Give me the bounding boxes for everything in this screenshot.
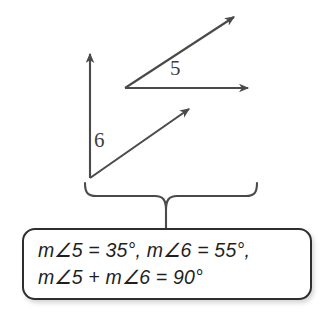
curly-brace bbox=[85, 183, 257, 228]
geometry-figure: 5 6 m∠5 = 35°, m∠6 = 55°, m∠5 + m∠6 = 90… bbox=[0, 0, 335, 318]
equation-callout: m∠5 = 35°, m∠6 = 55°, m∠5 + m∠6 = 90° bbox=[22, 228, 312, 300]
angle-6-label: 6 bbox=[94, 130, 105, 151]
callout-line-1: m∠5 = 35°, m∠6 = 55°, bbox=[38, 237, 296, 264]
angle-6-diagonal-ray bbox=[90, 109, 189, 178]
callout-line-2: m∠5 + m∠6 = 90° bbox=[38, 264, 296, 291]
angle-5-label: 5 bbox=[170, 58, 181, 79]
angle-5-group bbox=[125, 17, 248, 88]
